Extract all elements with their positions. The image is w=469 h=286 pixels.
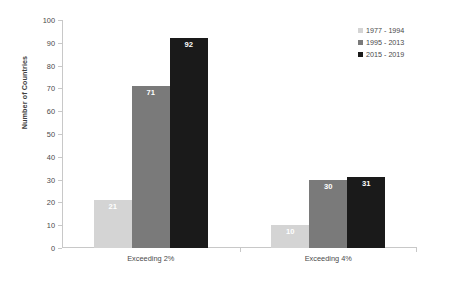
legend-swatch-icon: [358, 40, 363, 45]
bar: 92: [170, 38, 208, 248]
y-axis-title: Number of Countries: [20, 33, 29, 153]
legend: 1977 - 19941995 - 20132015 - 2019: [358, 25, 404, 61]
x-axis-tick: [240, 248, 241, 252]
y-axis-tick: [58, 180, 62, 181]
bar-value-label: 30: [309, 183, 347, 191]
legend-item: 1995 - 2013: [358, 37, 404, 48]
y-axis-tick-label: 40: [47, 152, 55, 161]
legend-swatch-icon: [358, 52, 363, 57]
y-axis-tick-label: 90: [47, 38, 55, 47]
legend-item: 2015 - 2019: [358, 49, 404, 60]
bar-value-label: 71: [132, 89, 170, 97]
y-axis-tick-label: 10: [47, 221, 55, 230]
x-axis-category-label: Exceeding 2%: [62, 254, 240, 263]
bar: 30: [309, 180, 347, 248]
bar-value-label: 31: [347, 180, 385, 188]
y-axis-tick-label: 100: [43, 16, 55, 25]
x-axis-tick: [416, 248, 417, 252]
y-axis-tick-label: 50: [47, 130, 55, 139]
y-axis-tick: [58, 134, 62, 135]
bar-chart: Number of Countries 01020304050607080901…: [0, 0, 469, 286]
y-axis-tick: [58, 248, 62, 249]
y-axis-tick-label: 20: [47, 198, 55, 207]
y-axis-tick-label: 70: [47, 84, 55, 93]
y-axis-tick: [58, 202, 62, 203]
y-axis-tick: [58, 43, 62, 44]
bar: 21: [94, 200, 132, 248]
y-axis-tick-label: 0: [51, 244, 55, 253]
y-axis-tick: [58, 111, 62, 112]
y-axis-tick: [58, 225, 62, 226]
legend-label: 1995 - 2013: [366, 38, 404, 47]
legend-item: 1977 - 1994: [358, 25, 404, 36]
legend-swatch-icon: [358, 28, 363, 33]
y-axis-tick: [58, 20, 62, 21]
y-axis-line: [62, 20, 63, 248]
y-axis-tick-label: 80: [47, 61, 55, 70]
x-axis-category-label: Exceeding 4%: [240, 254, 418, 263]
bar-value-label: 21: [94, 203, 132, 211]
bar: 71: [132, 86, 170, 248]
legend-label: 1977 - 1994: [366, 26, 404, 35]
bar: 10: [271, 225, 309, 248]
y-axis-tick-label: 30: [47, 175, 55, 184]
bar: 31: [347, 177, 385, 248]
bar-value-label: 92: [170, 41, 208, 49]
y-axis-tick: [58, 66, 62, 67]
bar-value-label: 10: [271, 228, 309, 236]
legend-label: 2015 - 2019: [366, 50, 404, 59]
y-axis-tick: [58, 157, 62, 158]
y-axis-tick-label: 60: [47, 107, 55, 116]
y-axis-tick: [58, 88, 62, 89]
